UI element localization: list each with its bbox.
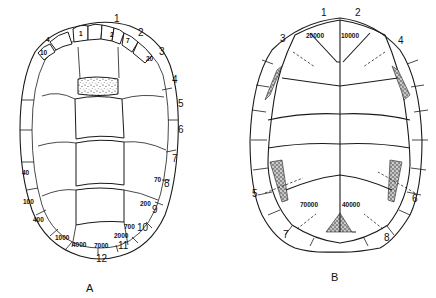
value-a-left-top: 10 [40, 49, 48, 56]
value-b-upper-right: 10000 [341, 32, 359, 39]
label-b-1: 1 [321, 7, 327, 18]
value-a-top-left-b: 1 [79, 30, 83, 37]
label-b-2: 2 [355, 7, 361, 18]
label-a-12: 12 [96, 253, 108, 264]
label-b-5: 5 [252, 188, 258, 199]
vertebral-3 [76, 140, 124, 186]
value-b-lower-left: 70000 [300, 201, 318, 208]
value-a-right-mid: 200 [140, 200, 151, 207]
label-b-8: 8 [384, 232, 390, 243]
value-a-right-lower-b: 700 [124, 223, 135, 230]
value-a-top-left-a: 4 [46, 36, 50, 43]
value-a-top-right-b: 7 [126, 37, 130, 44]
vertebral-1 [78, 77, 118, 96]
figure: 4 1 2 7 20 10 40 100 400 1000 4000 7000 … [0, 0, 436, 298]
caption-a: A [86, 282, 94, 294]
value-a-top-right-c: 20 [146, 55, 154, 62]
label-a-10: 10 [137, 222, 149, 233]
panel-b-plastron: 20000 10000 70000 40000 1 2 3 4 5 6 7 8 … [250, 7, 428, 283]
label-b-6: 6 [412, 193, 418, 204]
label-a-2: 2 [138, 27, 144, 38]
value-a-top-right-a: 2 [110, 31, 114, 38]
label-a-9: 9 [152, 204, 158, 215]
label-a-8: 8 [164, 178, 170, 189]
label-a-11: 11 [118, 240, 129, 251]
label-a-5: 5 [178, 98, 184, 109]
label-b-7: 7 [283, 229, 289, 240]
value-b-upper-left: 20000 [306, 32, 324, 39]
value-a-bottom-mid-right: 7000 [94, 242, 109, 249]
label-a-1: 1 [114, 13, 120, 24]
vertebral-4 [76, 188, 124, 225]
plastron-outline [250, 18, 422, 252]
label-a-4: 4 [172, 74, 178, 85]
label-a-6: 6 [178, 124, 184, 135]
value-a-left-mid: 40 [22, 169, 30, 176]
label-b-4: 4 [398, 35, 404, 46]
vertebral-2 [75, 97, 124, 140]
caption-b: B [331, 271, 338, 283]
value-a-left-lower: 400 [33, 216, 44, 223]
panel-a-carapace: 4 1 2 7 20 10 40 100 400 1000 4000 7000 … [20, 13, 184, 294]
value-a-right-upper: 70 [154, 176, 162, 183]
value-b-lower-right: 40000 [342, 201, 360, 208]
label-a-7: 7 [172, 153, 178, 164]
value-a-right-lower-a: 2000 [114, 232, 129, 239]
value-a-bottom-left: 1000 [55, 234, 70, 241]
label-b-3: 3 [280, 33, 286, 44]
value-a-bottom-mid-left: 4000 [72, 241, 87, 248]
value-a-left-low: 100 [23, 198, 34, 205]
label-a-3: 3 [159, 46, 165, 57]
